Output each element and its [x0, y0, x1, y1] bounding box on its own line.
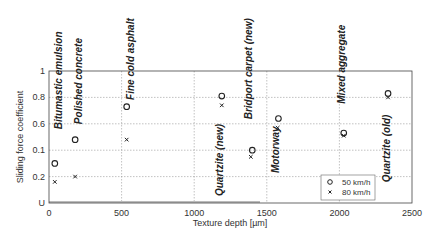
surface-label: Polished concrete — [73, 38, 84, 125]
surface-annotations: Bitumastic emulsionPolished concreteFine… — [53, 18, 392, 196]
legend-label: 80 km/h — [342, 188, 370, 197]
surface-label: Mixed aggregate — [336, 24, 347, 103]
x-axis-label: Texture depth [µm] — [193, 218, 268, 228]
surface-label: Quartzite (old) — [381, 114, 392, 182]
surface-label: Bitumastic emulsion — [53, 31, 64, 129]
y-axis-ticks: U0.20.10.60.81 — [32, 66, 45, 208]
y-tick-label: 0.6 — [32, 119, 45, 129]
marker-50kmh — [124, 104, 130, 110]
surface-label: Fine cold asphalt — [125, 18, 136, 100]
legend-label: 50 km/h — [342, 178, 370, 187]
surface-label: Quartzite (new) — [214, 123, 225, 196]
marker-50kmh — [72, 137, 78, 143]
marker-80kmh — [249, 155, 253, 159]
x-axis-ticks: 05001000150020002500 — [46, 208, 422, 218]
scatter-chart: 05001000150020002500 U0.20.10.60.81 Text… — [0, 0, 438, 243]
marker-80kmh — [125, 138, 129, 142]
marker-80kmh — [53, 180, 57, 184]
x-tick-label: 500 — [114, 208, 129, 218]
marker-50kmh — [385, 91, 391, 97]
marker-50kmh — [52, 161, 58, 167]
y-axis-label: Sliding force coefficient — [15, 90, 25, 183]
y-tick-label: U — [39, 198, 46, 208]
x-tick-label: 2500 — [402, 208, 422, 218]
surface-label: Bridport carpet (new) — [243, 18, 254, 120]
marker-80kmh — [220, 104, 224, 108]
x-tick-label: 1500 — [257, 208, 277, 218]
x-tick-label: 2000 — [329, 208, 349, 218]
surface-label: Motorway — [270, 126, 281, 173]
y-tick-label: 1 — [40, 66, 45, 76]
marker-50kmh — [276, 116, 282, 122]
marker-50kmh — [219, 93, 225, 99]
y-tick-label: 0.1 — [32, 145, 45, 155]
legend: 50 km/h80 km/h — [321, 175, 375, 200]
y-tick-label: 0.8 — [32, 92, 45, 102]
x-tick-label: 1000 — [184, 208, 204, 218]
x-tick-label: 0 — [46, 208, 51, 218]
y-tick-label: 0.2 — [32, 172, 45, 182]
